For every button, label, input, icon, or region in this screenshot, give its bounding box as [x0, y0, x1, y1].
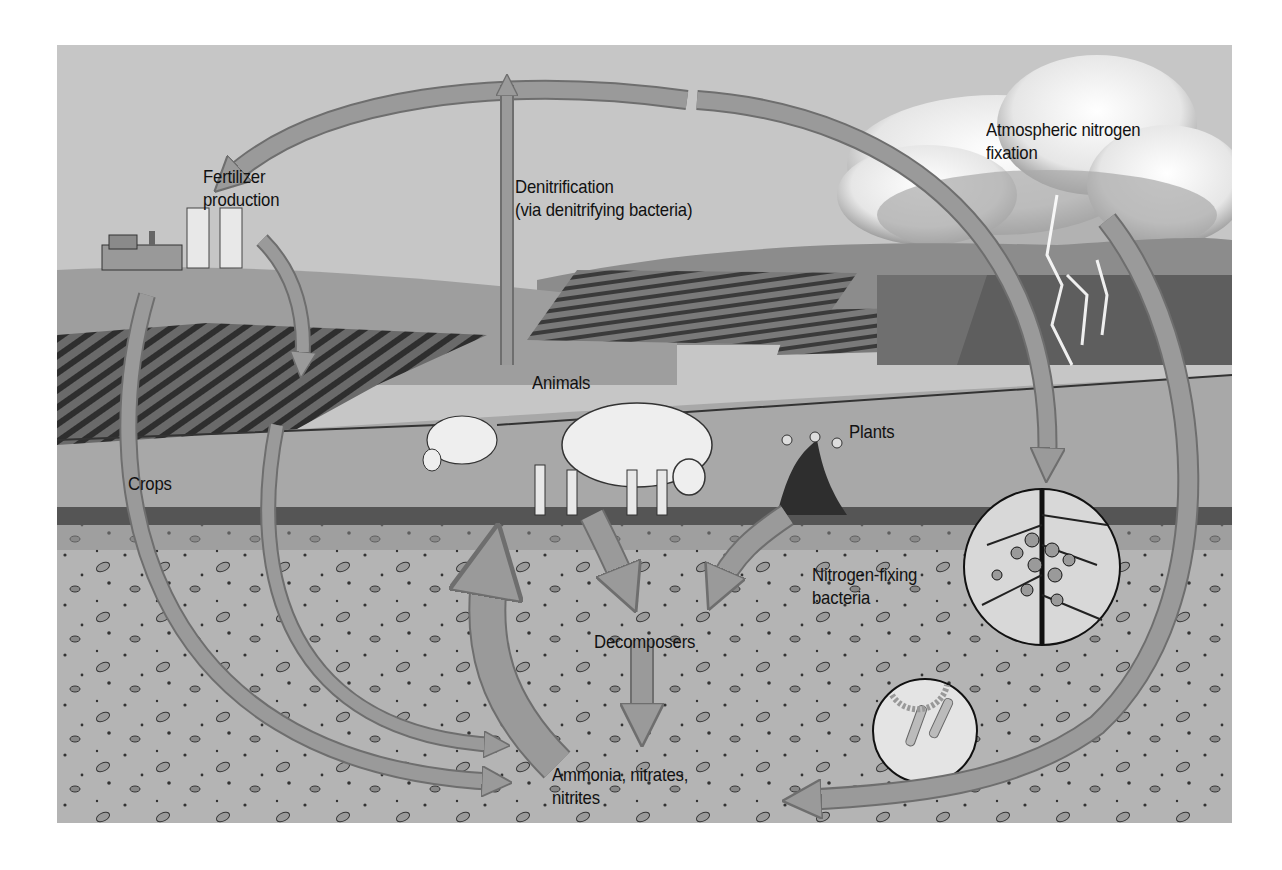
nitrogen-fixing-line1: Nitrogen-fixing	[812, 563, 917, 586]
denitrification-label: Denitrification (via denitrifying bacter…	[515, 175, 692, 221]
denitrification-line2: (via denitrifying bacteria)	[515, 198, 692, 221]
plants-label: Plants	[849, 420, 894, 443]
fertilizer-line2: production	[203, 188, 279, 211]
ammonia-nitrates-nitrites-label: Ammonia, nitrates, nitrites	[552, 763, 688, 809]
fertilizer-production-label: Fertilizer production	[203, 165, 279, 211]
root-nodule-inset-icon	[964, 489, 1120, 645]
bacteria-inset-icon	[873, 679, 977, 783]
atmospheric-line1: Atmospheric nitrogen	[986, 118, 1140, 141]
nitrogen-fixing-bacteria-label: Nitrogen-fixing bacteria	[812, 563, 917, 609]
nitrogen-fixing-line2: bacteria	[812, 586, 917, 609]
denitrification-line1: Denitrification	[515, 175, 692, 198]
atmospheric-line2: fixation	[986, 141, 1140, 164]
crops-label: Crops	[128, 472, 172, 495]
animals-label: Animals	[532, 371, 590, 394]
ammonia-line2: nitrites	[552, 786, 688, 809]
nitrogen-cycle-figure: Fertilizer production Denitrification (v…	[57, 45, 1232, 823]
atmospheric-fixation-label: Atmospheric nitrogen fixation	[986, 118, 1140, 164]
decomposers-label: Decomposers	[594, 630, 695, 653]
ammonia-line1: Ammonia, nitrates,	[552, 763, 688, 786]
fertilizer-line1: Fertilizer	[203, 165, 279, 188]
